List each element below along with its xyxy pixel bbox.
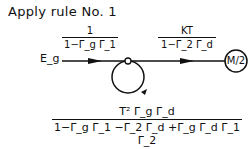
arrow-icon: [180, 58, 194, 64]
sink-node-label: M/2: [225, 50, 247, 72]
junction-node: [125, 58, 131, 64]
self-loop: [112, 61, 144, 93]
arrow-icon: [88, 58, 102, 64]
loop-arrow-icon: [141, 89, 147, 95]
result-denominator: 1−Γ_g Γ_1 −Γ_2 Γ_d +Γ_g Γ_d Γ_1 Γ_2: [52, 119, 242, 147]
result-expression: T² Γ_g Γ_d 1−Γ_g Γ_1 −Γ_2 Γ_d +Γ_g Γ_d Γ…: [52, 105, 242, 147]
result-numerator: T² Γ_g Γ_d: [52, 105, 242, 119]
